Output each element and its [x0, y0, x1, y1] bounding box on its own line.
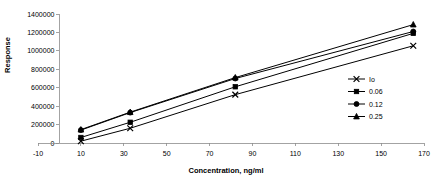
data-point-marker — [79, 135, 83, 139]
x-axis-tick-labels: -101030507090110130150170 — [33, 150, 430, 157]
y-tick-label: 1000000 — [27, 47, 54, 54]
data-point-marker — [411, 29, 416, 34]
legend-item-0-25[interactable]: 0.25 — [348, 113, 383, 120]
legend-label: 0.06 — [369, 88, 383, 95]
x-tick-label: 10 — [77, 150, 85, 157]
x-tick-label: 170 — [418, 150, 430, 157]
x-tick-label: 150 — [375, 150, 387, 157]
data-point-marker — [354, 89, 358, 93]
y-axis-tick-labels: 0200000400000600000800000100000012000001… — [27, 11, 54, 147]
x-tick-label: -10 — [33, 150, 43, 157]
chart-container: 0200000400000600000800000100000012000001… — [0, 0, 436, 179]
data-point-marker — [128, 120, 132, 124]
data-point-marker — [354, 102, 359, 107]
series-0-06 — [79, 31, 416, 140]
chart-plot: 0200000400000600000800000100000012000001… — [0, 0, 436, 179]
legend-label: 0.12 — [369, 101, 383, 108]
data-point-marker — [410, 22, 416, 28]
series-io — [78, 43, 416, 144]
legend-item-io[interactable]: Io — [348, 76, 375, 83]
chart-legend: Io0.060.120.25 — [348, 76, 383, 121]
y-tick-label: 1400000 — [27, 11, 54, 18]
series-0-12 — [78, 29, 415, 133]
legend-item-0-06[interactable]: 0.06 — [348, 88, 383, 95]
data-point-marker — [410, 43, 416, 49]
chart-series-group — [78, 22, 416, 145]
series-0-25 — [78, 22, 416, 133]
x-tick-label: 70 — [206, 150, 214, 157]
y-tick-label: 600000 — [31, 84, 54, 91]
y-tick-label: 200000 — [31, 121, 54, 128]
x-tick-label: 90 — [249, 150, 257, 157]
y-tick-label: 1200000 — [27, 29, 54, 36]
x-tick-label: 50 — [163, 150, 171, 157]
y-axis-title: Response — [3, 37, 12, 73]
legend-item-0-12[interactable]: 0.12 — [348, 101, 383, 108]
data-point-marker — [233, 85, 237, 89]
legend-label: Io — [369, 76, 375, 83]
y-tick-label: 400000 — [31, 103, 54, 110]
data-point-marker — [232, 92, 238, 98]
data-point-marker — [127, 125, 133, 131]
series-line — [81, 46, 413, 141]
x-tick-label: 110 — [290, 150, 301, 157]
x-axis-title: Concentration, ng/ml — [189, 166, 264, 175]
x-tick-label: 30 — [120, 150, 128, 157]
x-tick-label: 130 — [332, 150, 344, 157]
legend-label: 0.25 — [369, 113, 383, 120]
y-tick-label: 800000 — [31, 66, 54, 73]
